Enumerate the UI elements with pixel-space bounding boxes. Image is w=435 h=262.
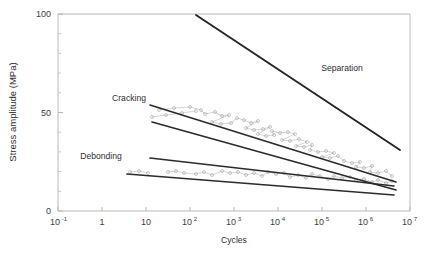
stress-amplitude-vs-cycles-chart: 10-1110102103104105106107050100 Separati… [0, 0, 435, 262]
x-tick-label: 10 [182, 217, 192, 227]
x-tick-exponent: 7 [414, 215, 418, 222]
y-tick-label: 0 [46, 206, 51, 216]
y-tick-label: 100 [36, 9, 51, 19]
x-tick-exponent: 3 [238, 215, 242, 222]
x-tick-label: 10 [50, 217, 60, 227]
annotation-label: Separation [321, 63, 363, 73]
x-tick-label: 10 [314, 217, 324, 227]
x-tick-label: 10 [358, 217, 368, 227]
x-tick-exponent: 4 [282, 215, 286, 222]
y-axis-label: Stress amplitude (MPa) [7, 62, 18, 161]
x-tick-label: 10 [226, 217, 236, 227]
x-tick-exponent: -1 [62, 215, 68, 222]
x-tick-label: 10 [402, 217, 412, 227]
x-tick-exponent: 2 [194, 215, 198, 222]
y-tick-label: 50 [41, 108, 51, 118]
x-axis-label: Cycles [221, 235, 247, 245]
annotation-label: Cracking [112, 93, 146, 103]
x-tick-exponent: 6 [370, 215, 374, 222]
annotation-label: Debonding [80, 151, 122, 161]
x-tick-label: 1 [99, 217, 104, 227]
x-tick-label: 10 [141, 217, 151, 227]
chart-figure: 10-1110102103104105106107050100 Separati… [0, 0, 435, 262]
x-tick-exponent: 5 [326, 215, 330, 222]
x-tick-label: 10 [270, 217, 280, 227]
